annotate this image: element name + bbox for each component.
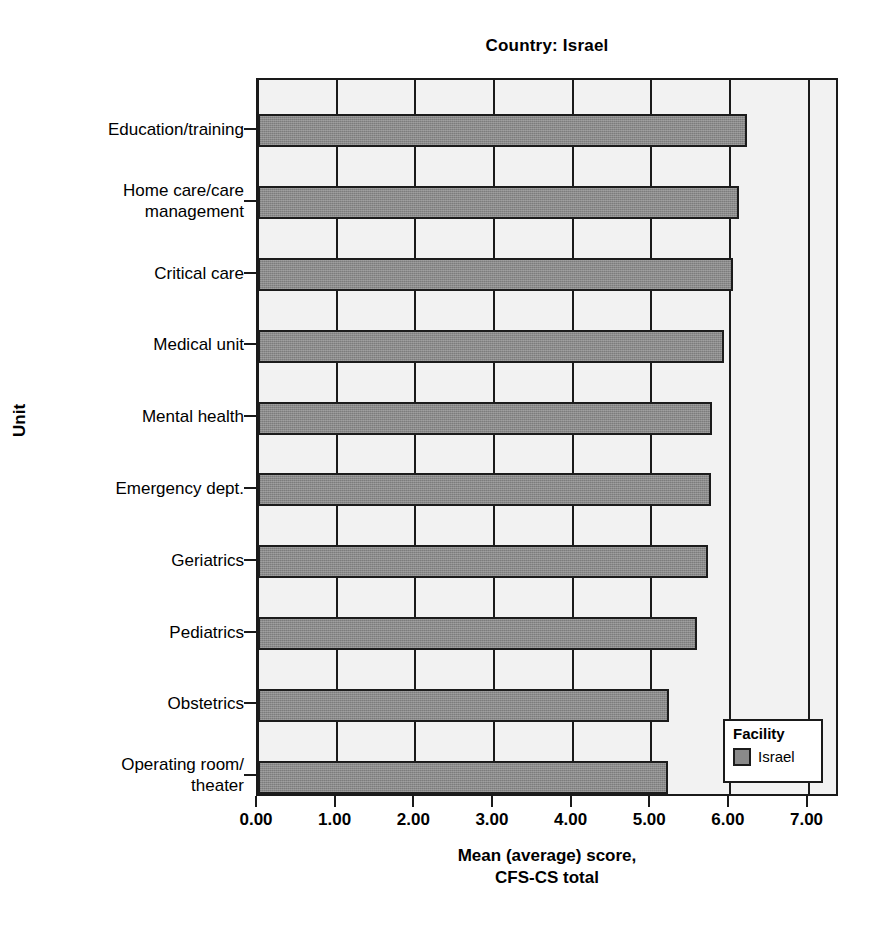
chart-figure: Country: Israel Unit Education/trainingH… <box>0 0 872 925</box>
y-tick-label: Mental health <box>142 406 254 427</box>
legend: Facility Israel <box>723 719 823 783</box>
bar <box>258 330 724 363</box>
bar <box>258 114 747 147</box>
x-tick-label: 1.00 <box>318 810 351 830</box>
x-tick-label: 6.00 <box>711 810 744 830</box>
y-tick-label: Geriatrics <box>171 549 254 570</box>
legend-swatch <box>733 748 751 766</box>
gridline <box>808 80 810 794</box>
legend-entry: Israel <box>733 748 821 766</box>
x-tick-mark <box>570 796 572 807</box>
legend-label: Israel <box>758 748 795 766</box>
y-tick-label: Medical unit <box>153 334 254 355</box>
bar <box>258 545 708 578</box>
bar-texture <box>260 619 695 648</box>
x-tick-mark <box>806 796 808 807</box>
y-tick-label: Critical care <box>154 262 254 283</box>
y-tick-label: Obstetrics <box>167 693 254 714</box>
x-tick-mark <box>255 796 257 807</box>
x-tick-label: 7.00 <box>790 810 823 830</box>
x-tick-mark <box>727 796 729 807</box>
bar-texture <box>260 691 667 720</box>
legend-title: Facility <box>733 725 821 743</box>
y-tick-label: Emergency dept. <box>115 477 254 498</box>
chart-title: Country: Israel <box>256 36 838 56</box>
x-tick-label: 3.00 <box>475 810 508 830</box>
bar-texture <box>260 188 737 217</box>
x-tick-label: 2.00 <box>397 810 430 830</box>
bar-texture <box>260 116 745 145</box>
x-tick-mark <box>334 796 336 807</box>
y-tick-label: Education/training <box>108 118 254 139</box>
bar <box>258 761 668 794</box>
bar <box>258 402 712 435</box>
x-axis-title: Mean (average) score, CFS-CS total <box>256 845 838 889</box>
y-tick-label: Home care/care management <box>123 180 254 222</box>
x-tick-mark <box>648 796 650 807</box>
x-tick-label: 0.00 <box>239 810 272 830</box>
bar <box>258 473 711 506</box>
x-tick-mark <box>491 796 493 807</box>
bar <box>258 617 697 650</box>
y-tick-label: Pediatrics <box>169 621 254 642</box>
legend-entries: Israel <box>733 748 821 766</box>
x-tick-label: 5.00 <box>633 810 666 830</box>
y-axis-title: Unit <box>10 404 30 437</box>
bar-texture <box>260 404 710 433</box>
plot-area <box>256 78 838 796</box>
y-tick-label: Operating room/ theater <box>121 754 254 796</box>
bar-texture <box>260 547 706 576</box>
x-tick-label: 4.00 <box>554 810 587 830</box>
bar-texture <box>260 260 731 289</box>
bar <box>258 258 733 291</box>
bar <box>258 186 739 219</box>
bar-texture <box>260 332 722 361</box>
bar <box>258 689 669 722</box>
bar-texture <box>260 763 666 792</box>
bar-texture <box>260 475 709 504</box>
x-tick-mark <box>412 796 414 807</box>
